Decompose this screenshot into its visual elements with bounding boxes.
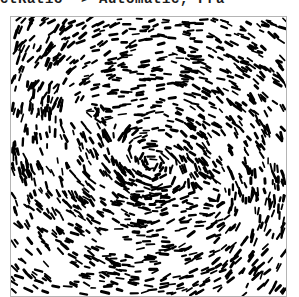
code-text-clip: AspectRatio -> Automatic, Fra bbox=[0, 0, 299, 11]
orientation-field-plot bbox=[11, 17, 286, 296]
plot-panel bbox=[10, 16, 287, 297]
code-line-text: AspectRatio -> Automatic, Fra bbox=[0, 0, 225, 7]
